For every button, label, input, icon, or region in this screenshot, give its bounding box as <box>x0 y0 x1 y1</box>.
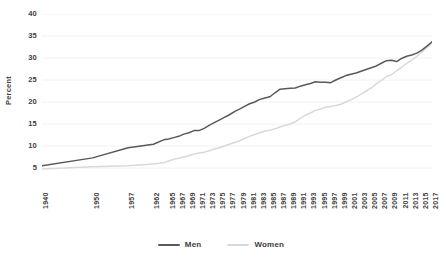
x-axis-tick-label: 1997 <box>331 192 338 208</box>
plot-svg <box>42 14 432 190</box>
x-axis-tick-label: 2001 <box>351 192 358 208</box>
x-axis-tick-label: 2005 <box>371 192 378 208</box>
x-axis-tick-label: 1987 <box>280 192 287 208</box>
legend-label: Women <box>254 240 284 249</box>
x-axis-tick-label: 1979 <box>240 192 247 208</box>
x-axis-tick-label: 2013 <box>412 192 419 208</box>
x-axis-tick-label: 1983 <box>260 192 267 208</box>
x-axis-tick-label: 1967 <box>179 192 186 208</box>
x-axis-tick-label: 2009 <box>391 192 398 208</box>
x-axis-tick-label: 2011 <box>402 192 409 208</box>
x-axis-tick-label: 1975 <box>219 192 226 208</box>
legend-item-men[interactable]: Men <box>158 240 202 249</box>
y-axis-title: Percent <box>4 61 13 121</box>
x-axis-tick-label: 1965 <box>169 192 176 208</box>
legend-label: Men <box>185 240 202 249</box>
y-axis-tick-label: 40 <box>28 10 37 18</box>
x-axis-tick-label: 1973 <box>209 192 216 208</box>
x-axis-tick-label: 1957 <box>128 192 135 208</box>
series-line-women <box>42 43 432 169</box>
x-axis-tick-label: 1971 <box>199 192 206 208</box>
x-axis-tick-label: 1962 <box>153 192 160 208</box>
legend-line-icon <box>158 244 180 246</box>
chart-legend: MenWomen <box>0 240 442 249</box>
x-axis-tick-label: 1940 <box>42 192 49 208</box>
y-axis-tick-label: 20 <box>28 98 37 106</box>
line-chart: 403530252015105 Percent 1940195019571962… <box>0 0 442 259</box>
x-axis-tick-label: 1981 <box>250 192 257 208</box>
series-line-men <box>42 42 432 166</box>
y-axis-tick-label: 25 <box>28 76 37 84</box>
plot-area <box>42 14 432 190</box>
y-axis-tick-label: 35 <box>28 32 37 40</box>
x-axis: 1940195019571962196519671969197119731975… <box>42 192 432 236</box>
x-axis-tick-label: 2017 <box>432 192 439 208</box>
y-axis-tick-label: 10 <box>28 142 37 150</box>
x-axis-tick-label: 1969 <box>189 192 196 208</box>
x-axis-tick-label: 2007 <box>381 192 388 208</box>
x-axis-tick-label: 1995 <box>321 192 328 208</box>
x-axis-tick-label: 1950 <box>93 192 100 208</box>
x-axis-tick-label: 2015 <box>422 192 429 208</box>
x-axis-tick-label: 1985 <box>270 192 277 208</box>
y-axis-tick-label: 5 <box>33 164 37 172</box>
legend-line-icon <box>227 244 249 246</box>
x-axis-tick-label: 2003 <box>361 192 368 208</box>
x-axis-tick-label: 1993 <box>310 192 317 208</box>
x-axis-tick-label: 1977 <box>229 192 236 208</box>
x-axis-tick-label: 1989 <box>290 192 297 208</box>
x-axis-tick-label: 1999 <box>341 192 348 208</box>
x-axis-tick-label: 1991 <box>300 192 307 208</box>
y-axis-tick-label: 30 <box>28 54 37 62</box>
legend-item-women[interactable]: Women <box>227 240 284 249</box>
y-axis-tick-label: 15 <box>28 120 37 128</box>
